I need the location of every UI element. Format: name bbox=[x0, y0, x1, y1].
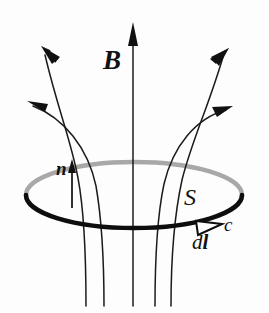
flux-arrow-right-inner-icon bbox=[212, 106, 233, 117]
label-normal-vector-n: n bbox=[56, 159, 67, 178]
label-line-element-l: l bbox=[203, 230, 209, 254]
flux-line-left-outer bbox=[45, 55, 86, 306]
label-line-element-dl: dl bbox=[192, 232, 208, 253]
flux-arrow-left-outer-icon-fill bbox=[41, 46, 60, 64]
field-axis-arrow-group bbox=[128, 22, 138, 46]
label-line-element-d: d bbox=[192, 230, 203, 254]
field-arrow-up-icon bbox=[128, 22, 138, 46]
figure-canvas bbox=[0, 0, 269, 313]
label-magnetic-field-B: B bbox=[103, 47, 121, 74]
flux-arrow-left-inner-icon bbox=[27, 101, 48, 112]
flux-arrow-right-outer-icon-fill bbox=[211, 48, 229, 66]
flux-line-left-inner bbox=[33, 106, 104, 306]
physics-figure-magnetic-flux: B n S c dl bbox=[0, 0, 269, 313]
flux-arrowheads-group bbox=[27, 46, 233, 117]
label-surface-S: S bbox=[184, 185, 196, 209]
flux-line-right-outer bbox=[171, 57, 223, 306]
label-contour-c: c bbox=[224, 215, 232, 234]
